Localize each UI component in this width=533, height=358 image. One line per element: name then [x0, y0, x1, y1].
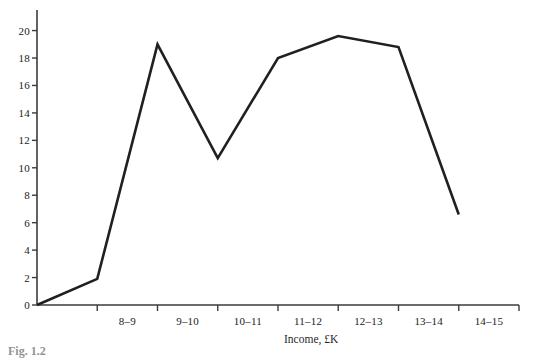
x-axis-tick-label: 14–15: [475, 315, 504, 327]
y-axis-tick-label: 6: [2, 217, 30, 229]
x-axis-tick-label: 12–13: [354, 315, 383, 327]
y-axis-tick-label: 16: [2, 79, 30, 91]
y-axis-tick-label: 18: [2, 52, 30, 64]
x-axis-tick-label: 11–12: [294, 315, 322, 327]
y-axis-tick-label: 0: [2, 299, 30, 311]
frequency-polygon-line: [37, 36, 459, 305]
x-axis-tick-label: 10–11: [234, 315, 262, 327]
y-axis-tick-label: 4: [2, 244, 30, 256]
figure-caption: Fig. 1.2: [8, 344, 46, 358]
x-axis-tick-label: 13–14: [414, 315, 443, 327]
y-axis-tick-label: 2: [2, 272, 30, 284]
y-axis-tick-label: 12: [2, 134, 30, 146]
chart-canvas: [0, 0, 533, 358]
y-axis-tick-label: 10: [2, 162, 30, 174]
x-axis-tick-label: 8–9: [119, 315, 136, 327]
figure-container: 02468101214161820 8–99–1010–1111–1212–13…: [0, 0, 533, 358]
x-axis-title: Income, £K: [284, 333, 338, 345]
y-axis-tick-label: 8: [2, 189, 30, 201]
x-tick-marks: [97, 305, 519, 311]
y-axis-tick-label: 14: [2, 107, 30, 119]
y-axis-tick-label: 20: [2, 25, 30, 37]
x-axis-tick-label: 9–10: [176, 315, 199, 327]
